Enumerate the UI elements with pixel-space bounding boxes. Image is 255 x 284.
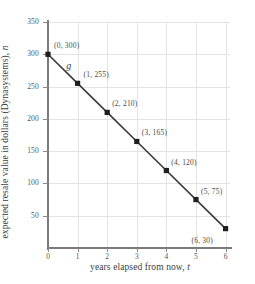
x-axis-title: years elapsed from now, t [40, 262, 240, 272]
data-point-marker [134, 139, 139, 144]
y-axis-title: expected resale value in dollars (Dynasy… [0, 0, 16, 284]
data-point-label: (0, 300) [54, 41, 79, 50]
x-axis-title-variable: t [187, 262, 190, 272]
data-point-label: (6, 30) [192, 236, 213, 245]
y-axis-title-variable: n [0, 46, 10, 51]
data-point-label: (1, 255) [84, 70, 109, 79]
chart-figure: 50100150200250300350 0123456 (0, 300)(1,… [0, 0, 255, 284]
data-point-label: (4, 120) [171, 158, 196, 167]
x-axis-title-text: years elapsed from now, [90, 262, 187, 272]
y-axis-title-text: expected resale value in dollars (Dynasy… [0, 50, 10, 238]
data-point-label: (5, 75) [201, 187, 222, 196]
data-series-g [0, 0, 255, 284]
data-point-marker [105, 110, 110, 115]
data-point-label: (2, 210) [112, 99, 137, 108]
data-point-marker [164, 168, 169, 173]
data-point-marker [75, 81, 80, 86]
data-point-marker [45, 52, 50, 57]
series-label-g: g [66, 60, 71, 71]
data-point-label: (3, 165) [142, 128, 167, 137]
data-point-marker [223, 226, 228, 231]
data-point-marker [193, 197, 198, 202]
